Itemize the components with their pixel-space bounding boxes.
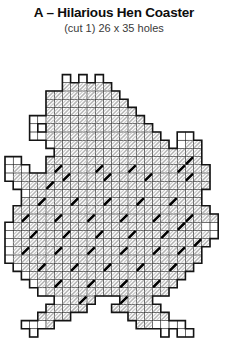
stitch-cell [5,173,13,181]
stitch-cell [5,255,13,263]
stitch-cell [30,321,38,329]
pattern-chart-area [0,44,228,342]
stitch-cell [5,230,13,238]
stitch-cell [210,230,218,238]
stitch-cell [21,189,29,197]
stitch-cell [5,247,13,255]
stitch-cell [177,329,185,337]
stitch-cell [62,75,70,83]
stitch-cell [153,321,161,329]
stitch-cell [5,222,13,230]
stitch-cell [13,157,21,165]
stitch-cell [169,321,177,329]
stitch-cell [30,116,38,124]
stitch-cell [177,132,185,140]
stitch-cell [30,280,38,288]
stitch-cell [5,157,13,165]
page-subtitle: (cut 1) 26 x 35 holes [0,21,228,35]
stitch-cell [161,329,169,337]
stitch-cell [185,329,193,337]
stitch-cell [46,140,54,148]
cell-gridlines [5,75,218,337]
stitch-cell [30,124,38,132]
stitch-cell [38,132,46,140]
stitch-cell [30,329,38,337]
stitch-cell [79,75,87,83]
stitch-cell [161,321,169,329]
stitch-cell [30,132,38,140]
stitch-cell [210,222,218,230]
stitch-cell [54,296,62,304]
chart-header: A – Hilarious Hen Coaster (cut 1) 26 x 3… [0,0,228,35]
stitch-cell [5,165,13,173]
stitch-cell [177,321,185,329]
stitch-cell [177,140,185,148]
stitch-pattern-grid [0,44,228,342]
stitch-cell [202,222,210,230]
page-title: A – Hilarious Hen Coaster [0,5,228,20]
stitch-cell [185,132,193,140]
stitch-cell [38,116,46,124]
stitch-cell [5,239,13,247]
stitch-cell [38,288,46,296]
stitch-cell [13,263,21,271]
stitch-cell [95,75,103,83]
stitch-cell [13,181,21,189]
stitch-cell [21,271,29,279]
stitch-cell [21,165,29,173]
stitch-cell [21,321,29,329]
stitch-cell [38,321,46,329]
